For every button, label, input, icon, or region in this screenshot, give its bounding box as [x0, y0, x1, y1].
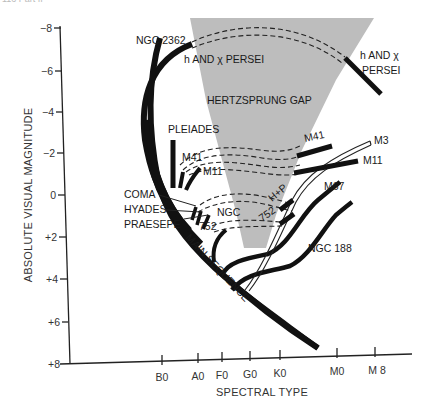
hp-giant-segment — [280, 200, 293, 210]
label-m41-left: M41 — [182, 151, 203, 163]
y-tick-label: −6 — [41, 65, 53, 77]
y-tick-label: −4 — [42, 106, 54, 118]
y-tick-label: −8 — [40, 22, 52, 34]
label-m11-right: M11 — [363, 154, 383, 166]
label-hchi-persei-right-2: PERSEI — [362, 64, 401, 76]
y-tick-label: −2 — [43, 147, 55, 159]
y-tick-labels: −8 −6 −4 −2 0 +2 +4 +6 +8 — [40, 22, 60, 370]
x-tick-label: M 8 — [368, 364, 386, 376]
y-axis-title: ABSOLUTE VISUAL MAGNITUDE — [22, 108, 34, 283]
label-m3: M3 — [374, 134, 389, 146]
label-752-left: 752 — [199, 220, 217, 232]
label-pleiades: PLEIADES — [168, 123, 219, 135]
x-tick-label: K0 — [274, 367, 287, 379]
y-tick-label: +4 — [46, 273, 58, 285]
x-tick-label: G0 — [243, 368, 257, 380]
label-hertzsprung-gap: HERTZSPRUNG GAP — [207, 94, 312, 106]
y-tick-label: +2 — [45, 231, 57, 243]
y-tick-label: +6 — [48, 316, 60, 328]
label-hyades: HYADES — [124, 203, 166, 215]
x-tick-label: A0 — [192, 370, 205, 382]
label-m11-left: M11 — [203, 165, 223, 177]
x-tick-label: M0 — [330, 365, 345, 377]
y-tick-label: 0 — [50, 189, 56, 201]
y-axis — [54, 26, 70, 364]
m11-giant-segment — [294, 161, 358, 173]
y-tick-label: +8 — [48, 358, 60, 370]
label-ngc188: NGC 188 — [308, 242, 352, 254]
x-axis-title: SPECTRAL TYPE — [216, 386, 308, 398]
label-hchi-persei-inner: h AND χ PERSEI — [184, 53, 264, 65]
label-ngc2362: NGC 2362 — [136, 34, 186, 46]
label-ngc: NGC — [217, 206, 241, 218]
x-tick-label: F0 — [216, 369, 228, 381]
x-tick-labels: B0 A0 F0 G0 K0 M0 M 8 — [156, 364, 386, 383]
label-coma: COMA — [124, 188, 156, 200]
label-hchi-persei-right-1: h AND χ — [360, 49, 399, 61]
x-axis — [60, 347, 412, 365]
hr-diagram-cluster-chart: −8 −6 −4 −2 0 +2 +4 +6 +8 B0 A0 F0 G0 K0… — [0, 0, 430, 412]
x-tick-label: B0 — [156, 371, 169, 383]
label-m67: M67 — [324, 180, 345, 192]
label-praesepe: PRAESEPE — [124, 218, 181, 230]
